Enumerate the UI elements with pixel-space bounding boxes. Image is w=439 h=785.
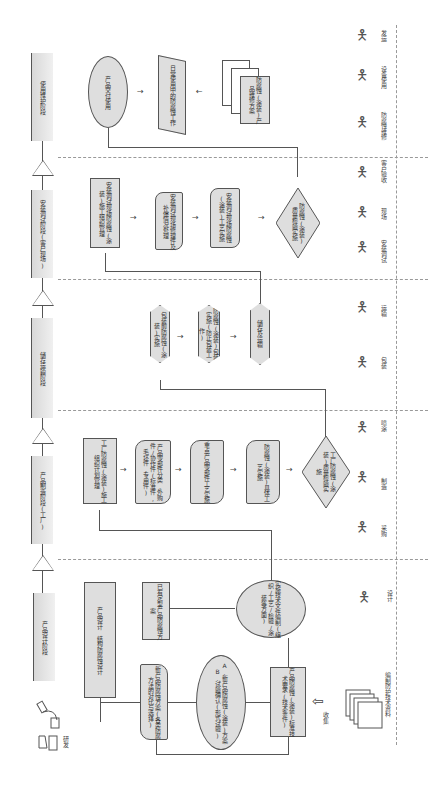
- flow-line: [246, 702, 270, 703]
- connector: [42, 306, 43, 318]
- docs-icon: [344, 688, 384, 730]
- separator: [58, 157, 428, 158]
- connector: [42, 444, 43, 456]
- flow-line: [325, 389, 326, 439]
- arrow-right-icon: →: [175, 466, 182, 474]
- flow-line: [170, 608, 235, 609]
- node-install-check: 防腐蚀(涂装)质量检验实施: [276, 188, 320, 258]
- node-factory-plan: 工厂防腐蚀(涂装)施工组织计划管理: [83, 438, 117, 504]
- node-daily-maintenance-text: 日常使用中的防腐蚀工作: [169, 65, 176, 126]
- node-factory-check-text: 工厂防腐蚀(涂装)质量检验实施: [312, 452, 340, 492]
- separator: [58, 559, 428, 560]
- arrow-right-icon: →: [120, 466, 127, 474]
- flow-line: [297, 147, 298, 177]
- node-install-plan: 安装调试现场防腐蚀(涂装)施工组织管理: [90, 178, 120, 248]
- role-label: 采购: [380, 525, 387, 536]
- role-label: 制造: [380, 478, 387, 489]
- role-label: 发运: [380, 30, 387, 41]
- role-label: 喷涂: [380, 420, 387, 431]
- flow-line: [271, 530, 272, 585]
- stage-use: 使用维护阶段: [31, 53, 53, 141]
- node-new-plan: 新产品防腐蚀方案(各类防腐方法的对比与选择): [140, 664, 168, 740]
- separator: [58, 410, 428, 411]
- node-transport-pack: 防腐蚀(涂装)包装实施(防止包装工作): [198, 305, 220, 363]
- connector: [42, 571, 43, 593]
- microscope-icon: [35, 700, 61, 755]
- role-label: 安装调试: [380, 240, 387, 262]
- person-icon: 🯅: [356, 68, 368, 82]
- node-key-process: 重点产品零部件工艺实施: [190, 440, 224, 504]
- arrow-right-icon: →: [230, 333, 237, 341]
- docs-label: 编制防护技术资料: [384, 672, 391, 716]
- stage-arrow-icon: [32, 160, 54, 176]
- person-icon: 🯅: [356, 470, 368, 484]
- stage-arrow-icon: [32, 428, 54, 444]
- stage-arrow-icon: [32, 555, 54, 571]
- flow-line: [160, 389, 325, 390]
- role-label: 防腐蚀维修: [380, 112, 387, 140]
- person-icon: 🯅: [356, 165, 368, 179]
- role-label: 设计: [386, 590, 393, 601]
- person-icon: 🯅: [356, 28, 368, 42]
- collect-label: 收集: [322, 712, 329, 723]
- role-label: 客户验收: [380, 160, 387, 182]
- node-existing-plan: 已有定型产品防腐蚀方案: [142, 582, 170, 640]
- node-daily-maintenance: 日常使用中的防腐蚀工作: [158, 55, 186, 135]
- arrow-right-icon: →: [130, 214, 137, 222]
- flow-line: [288, 737, 289, 755]
- arrow-right-icon: →: [192, 214, 199, 222]
- flow-line: [108, 147, 298, 148]
- node-install-check-text: 防腐蚀(涂装)质量检验实施: [284, 202, 312, 244]
- arrow-left-icon: ←: [196, 88, 203, 96]
- stage-design: 产品设计阶段: [33, 593, 55, 681]
- flow-line: [288, 638, 289, 667]
- arrow-right-icon: →: [286, 466, 293, 474]
- node-install-process: 安装调试现场防腐蚀(涂装)工艺实施: [210, 188, 240, 248]
- node-delivery: 产品交付使用: [88, 56, 128, 128]
- person-icon: 🯅: [356, 115, 368, 129]
- role-label: 现场: [380, 208, 387, 219]
- flow-line: [105, 253, 106, 271]
- role-label: 设备使用: [380, 66, 387, 88]
- flow-line: [156, 754, 289, 755]
- flow-line: [105, 271, 260, 272]
- arrow-right-icon: →: [258, 214, 265, 222]
- research-label: 研发: [62, 736, 69, 747]
- flow-line: [99, 530, 271, 531]
- node-store: 储存及运输: [250, 303, 270, 365]
- stage-install: 安装调试阶段(客户现场): [31, 190, 53, 278]
- arrow-right-icon: →: [137, 88, 144, 96]
- person-icon: 🯅: [356, 520, 368, 534]
- node-standard: 产品防腐蚀(涂装)标准技术要求(技术条件): [270, 667, 306, 737]
- arrow-right-icon: →: [230, 466, 237, 474]
- stage-storage: 储存运输阶段: [31, 318, 53, 418]
- role-label: 运输: [380, 305, 387, 316]
- truck-icon: 🯅: [356, 300, 368, 314]
- connector: [42, 176, 43, 190]
- flow-line: [100, 702, 140, 703]
- person-icon: 🯅: [356, 205, 368, 219]
- person-icon: 🯅: [356, 240, 368, 254]
- collect-arrow-icon: ⇦: [312, 697, 324, 705]
- arrow-right-icon: →: [177, 333, 184, 341]
- flow-line: [108, 128, 109, 148]
- node-detail-process: 防腐蚀(涂装)具体工艺实施: [246, 440, 280, 504]
- role-label: 包装: [380, 357, 387, 368]
- flow-line: [99, 510, 100, 530]
- flow-line: [156, 740, 157, 755]
- node-factory-check: 工厂防腐蚀(涂装)质量检验实施: [302, 436, 350, 508]
- separator: [58, 279, 428, 280]
- stage-manufacture: 产品制造阶段(工厂): [31, 456, 53, 544]
- person-icon: 🯅: [358, 590, 370, 604]
- node-product-design: 产品设计 结构防腐蚀设计: [84, 582, 116, 698]
- node-pack: 包装前防腐蚀(涂装)实施: [150, 305, 170, 363]
- stage-arrow-icon: [32, 290, 54, 306]
- node-eval: A.新产品防腐蚀(涂装)方案 B.试验确认(形式试验): [196, 655, 246, 750]
- person-icon: 🯅: [356, 355, 368, 369]
- separator: [396, 25, 397, 745]
- node-maintenance-plan: 防腐蚀(涂装)产品维修方案: [240, 76, 270, 124]
- person-icon: 🯅: [356, 420, 368, 434]
- flow-line: [168, 702, 196, 703]
- node-parts: 产品零部件分类,外购件/协作件(标准件,毛坯件,专用件): [135, 440, 171, 504]
- node-install-repair: 安装调试现场修理件及补偿情况处理: [155, 192, 183, 250]
